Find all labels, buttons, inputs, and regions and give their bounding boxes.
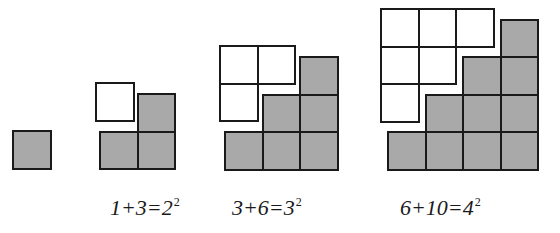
gray-square: [500, 56, 540, 96]
exponent: 2: [475, 195, 481, 209]
gray-square: [462, 131, 502, 171]
gray-square: [137, 93, 177, 133]
white-square: [418, 8, 458, 48]
white-square: [380, 83, 420, 123]
gray-square: [462, 56, 502, 96]
white-square: [380, 8, 420, 48]
white-square: [95, 82, 135, 122]
gray-square: [387, 131, 427, 171]
white-square: [219, 83, 259, 123]
equation-text: 3+6=3: [232, 195, 295, 220]
equation-text: 6+10=4: [400, 195, 474, 220]
gray-square: [299, 56, 339, 96]
equation-text: 1+3=2: [110, 195, 173, 220]
gray-square: [462, 94, 502, 134]
gray-square: [262, 94, 302, 134]
equation-label-4: 6+10=42: [400, 196, 481, 219]
exponent: 2: [296, 195, 302, 209]
gray-square: [262, 131, 302, 171]
gray-square: [500, 131, 540, 171]
gray-square: [137, 131, 177, 171]
gray-square: [224, 131, 264, 171]
white-square: [380, 46, 420, 86]
white-square: [418, 46, 458, 86]
equation-label-3: 3+6=32: [232, 196, 302, 219]
exponent: 2: [174, 195, 180, 209]
equation-label-2: 1+3=22: [110, 196, 180, 219]
gray-square: [425, 94, 465, 134]
gray-square: [425, 131, 465, 171]
white-square: [455, 8, 495, 48]
gray-square: [500, 19, 540, 59]
white-square: [257, 45, 297, 85]
gray-square: [99, 131, 139, 171]
gray-square: [12, 130, 52, 170]
gray-square: [299, 94, 339, 134]
white-square: [219, 45, 259, 85]
gray-square: [299, 131, 339, 171]
gray-square: [500, 94, 540, 134]
